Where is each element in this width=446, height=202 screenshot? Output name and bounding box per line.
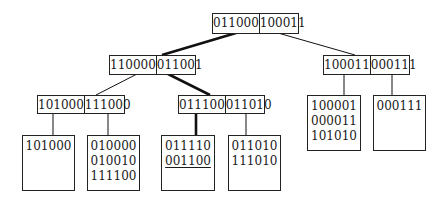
leaf-bucket: 101000 bbox=[22, 135, 75, 191]
internal-node-left-right: 011100 011010 bbox=[178, 95, 265, 114]
edge-root-left bbox=[162, 33, 236, 55]
leaf-bucket: 011010 111010 bbox=[228, 135, 281, 191]
internal-node-left: 110000 011001 bbox=[109, 55, 196, 75]
edge-root-right bbox=[278, 33, 355, 55]
root-node: 011000 100011 bbox=[212, 13, 299, 34]
leaf-entry: 000111 bbox=[374, 99, 425, 114]
node-key: 011010 bbox=[225, 96, 272, 113]
leaf-entry: 100001 bbox=[308, 99, 360, 114]
leaf-bucket-highlighted: 011110 001100 bbox=[161, 135, 215, 191]
internal-node-left-left: 101000 111000 bbox=[37, 95, 125, 114]
leaf-entry: 111010 bbox=[229, 154, 280, 169]
node-key: 011100 bbox=[179, 96, 225, 113]
node-key: 100011 bbox=[324, 56, 370, 74]
node-key: 110000 bbox=[110, 56, 156, 74]
edge-left-leftleft bbox=[96, 74, 137, 95]
leaf-bucket: 000111 bbox=[373, 95, 426, 151]
leaf-entry: 101010 bbox=[308, 129, 360, 144]
leaf-entry: 000011 bbox=[308, 114, 360, 129]
leaf-entry: 011010 bbox=[229, 139, 280, 154]
leaf-bucket: 010000 010010 111100 bbox=[87, 135, 140, 191]
node-key: 011000 bbox=[213, 14, 259, 33]
leaf-entry: 010000 bbox=[88, 139, 139, 154]
leaf-entry-underlined: 001100 bbox=[162, 154, 214, 169]
leaf-entry: 111100 bbox=[88, 169, 139, 184]
node-key: 101000 bbox=[38, 96, 84, 113]
leaf-entry: 010010 bbox=[88, 154, 139, 169]
node-key: 000111 bbox=[370, 56, 417, 74]
leaf-bucket: 100001 000011 101010 bbox=[307, 95, 361, 151]
node-key: 011001 bbox=[156, 56, 203, 74]
leaf-entry: 101000 bbox=[23, 139, 74, 154]
node-key: 111000 bbox=[84, 96, 131, 113]
leaf-entry: 011110 bbox=[162, 139, 214, 154]
internal-node-right: 100011 000111 bbox=[323, 55, 410, 75]
node-key: 100011 bbox=[259, 14, 306, 33]
edge-left-leftright bbox=[168, 74, 210, 95]
